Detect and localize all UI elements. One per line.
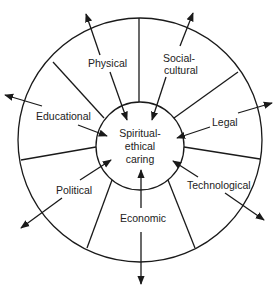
factor-label-social-cultural-1: Social- [163, 52, 196, 64]
arrow-out-icon [238, 103, 272, 113]
factor-economic: Economic [120, 170, 166, 284]
factor-label-technological: Technological [187, 179, 251, 191]
factor-label-political: Political [56, 184, 92, 196]
arrow-in-icon [80, 160, 111, 180]
factor-label-educational: Educational [36, 110, 91, 122]
center-label-line-2: ethical [125, 140, 155, 152]
arrow-in-icon [152, 77, 166, 120]
arrow-in-icon [78, 125, 107, 136]
factor-technological: Technological [173, 161, 264, 220]
factor-label-economic: Economic [120, 212, 166, 224]
factor-label-physical: Physical [88, 57, 127, 69]
spiritual-ethical-caring-diagram: Physical Social- cultural Legal Technolo… [0, 0, 277, 287]
factor-label-social-cultural-2: cultural [164, 64, 198, 76]
center-label-line-1: Spiritual- [119, 127, 161, 139]
arrow-out-icon [86, 14, 100, 55]
center-label-line-3: caring [126, 153, 155, 165]
arrow-out-icon [225, 193, 264, 220]
factor-label-legal: Legal [212, 116, 238, 128]
arrow-out-icon [21, 198, 62, 228]
center-label: Spiritual- ethical caring [119, 127, 161, 165]
arrow-in-icon [110, 72, 127, 120]
